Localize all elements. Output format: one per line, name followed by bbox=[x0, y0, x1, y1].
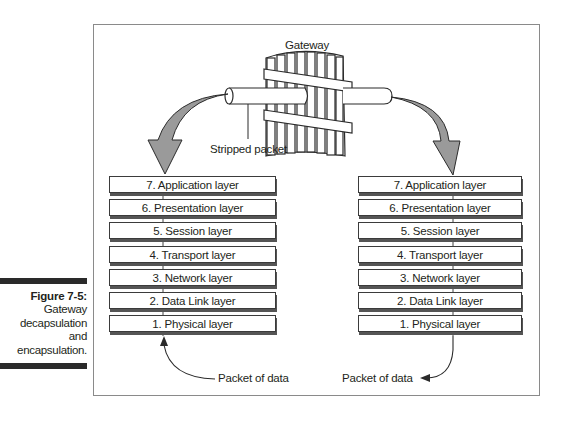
right-layer-7: 7. Application layer bbox=[358, 176, 522, 193]
right-layer-5: 5. Session layer bbox=[358, 222, 522, 239]
left-packet-arrow bbox=[164, 342, 215, 379]
gateway-label: Gateway bbox=[285, 39, 329, 51]
right-layer-6: 6. Presentation layer bbox=[358, 199, 522, 216]
right-layer-3: 3. Network layer bbox=[358, 269, 522, 286]
left-packet-of-data-label: Packet of data bbox=[218, 372, 289, 384]
right-layer-1: 1. Physical layer bbox=[358, 315, 522, 332]
right-packet-arrow bbox=[426, 336, 453, 378]
packet-pipe-right bbox=[343, 88, 392, 104]
left-layer-6: 6. Presentation layer bbox=[109, 199, 276, 216]
left-layer-7: 7. Application layer bbox=[109, 176, 276, 193]
left-layer-1: 1. Physical layer bbox=[109, 315, 276, 332]
right-packet-of-data-label: Packet of data bbox=[342, 372, 413, 384]
packet-pipe-left bbox=[225, 88, 308, 104]
left-layer-3: 3. Network layer bbox=[109, 269, 276, 286]
left-packet-arrowhead-icon bbox=[160, 336, 168, 346]
right-packet-arrowhead-icon bbox=[420, 374, 430, 382]
right-down-arrow-icon bbox=[391, 97, 460, 175]
left-layer-2: 2. Data Link layer bbox=[109, 292, 276, 309]
stripped-packet-label: Stripped packet bbox=[210, 143, 287, 155]
left-down-arrow-icon bbox=[148, 94, 228, 174]
left-layer-5: 5. Session layer bbox=[109, 222, 276, 239]
left-layer-4: 4. Transport layer bbox=[109, 246, 276, 263]
right-layer-4: 4. Transport layer bbox=[358, 246, 522, 263]
right-layer-2: 2. Data Link layer bbox=[358, 292, 522, 309]
